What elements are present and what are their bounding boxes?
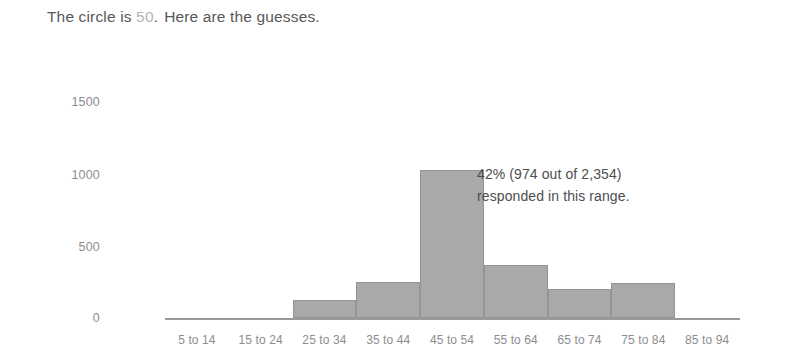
- bar-75-to-84: [611, 283, 675, 318]
- x-axis-line: [165, 318, 740, 320]
- x-tick-45-to-54: 45 to 54: [430, 333, 474, 347]
- bar-65-to-74: [548, 289, 612, 318]
- x-tick-15-to-24: 15 to 24: [239, 333, 283, 347]
- y-tick-500: 500: [0, 240, 100, 254]
- x-tick-5-to-14: 5 to 14: [178, 333, 215, 347]
- bar-45-to-54: [420, 170, 484, 318]
- x-tick-75-to-84: 75 to 84: [621, 333, 665, 347]
- histogram-chart: 0 500 1000 1500 5 to 1415 to 2425 to 343…: [0, 0, 800, 350]
- x-tick-35-to-44: 35 to 44: [366, 333, 410, 347]
- y-tick-1000: 1000: [0, 168, 100, 182]
- plot-area: [165, 90, 739, 318]
- x-tick-55-to-64: 55 to 64: [494, 333, 538, 347]
- x-tick-85-to-94: 85 to 94: [685, 333, 729, 347]
- highlight-annotation: 42% (974 out of 2,354) responded in this…: [477, 163, 630, 207]
- bar-55-to-64: [484, 265, 548, 318]
- x-tick-65-to-74: 65 to 74: [557, 333, 601, 347]
- y-axis: 0 500 1000 1500: [0, 0, 100, 350]
- annotation-line-2: responded in this range.: [477, 185, 630, 207]
- bar-25-to-34: [293, 300, 357, 318]
- x-tick-25-to-34: 25 to 34: [302, 333, 346, 347]
- annotation-line-1: 42% (974 out of 2,354): [477, 163, 630, 185]
- bar-35-to-44: [356, 282, 420, 318]
- y-tick-0: 0: [0, 311, 100, 325]
- y-tick-1500: 1500: [0, 95, 100, 109]
